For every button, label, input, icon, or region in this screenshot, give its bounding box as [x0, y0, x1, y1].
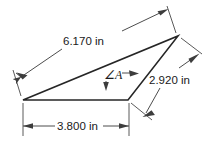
arrowhead-base-right: [119, 123, 129, 128]
engineering-drawing-figure: 6.170 in 2.920 in 3.800 in: [0, 0, 213, 147]
dimension-line-right-lower-seg: [146, 88, 160, 113]
extension-line-right-upper: [181, 38, 202, 54]
dimension-label-base: 3.800 in: [57, 120, 98, 132]
dimension-label-right-side: 2.920 in: [149, 74, 190, 86]
angle-label: ∠A: [104, 68, 123, 82]
extension-line-hypotenuse-right: [167, 6, 176, 33]
extension-line-right-lower: [131, 103, 152, 120]
arrowhead-hypotenuse-right: [158, 9, 169, 16]
dimension-label-hypotenuse: 6.170 in: [63, 35, 104, 47]
dimension-line-hypotenuse-left-seg: [21, 49, 62, 77]
dimension-line-hypotenuse-right-seg: [122, 11, 164, 31]
arrowhead-base-left: [23, 123, 33, 128]
figure-canvas: 6.170 in 2.920 in 3.800 in: [0, 0, 213, 147]
arrowhead-right-upper: [189, 54, 200, 64]
dimension-base: 3.800 in: [23, 103, 129, 136]
